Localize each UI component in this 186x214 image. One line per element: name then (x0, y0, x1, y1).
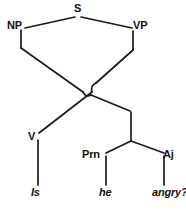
tree-edges (0, 0, 186, 214)
edge-np-diagonal-a (21, 48, 83, 92)
node-label-vp: VP (133, 20, 147, 31)
edge-vp-hop (92, 83, 97, 92)
node-label-prn: Prn (82, 149, 100, 160)
edge-s-np (25, 17, 75, 28)
edge-vp-diagonal-b (39, 92, 92, 133)
syntax-tree-diagram: S NP VP V Prn Aj Is he angry? (0, 0, 186, 214)
terminal-label-he: he (99, 187, 111, 198)
terminal-label-is: Is (31, 187, 40, 198)
terminal-label-angry: angry? (152, 187, 186, 198)
node-label-v: V (28, 131, 35, 142)
edge-s-vp (81, 17, 132, 28)
edge-split-prn (106, 141, 131, 153)
node-label-s: S (74, 3, 81, 14)
edge-split-aj (131, 141, 164, 153)
node-label-np: NP (7, 20, 22, 31)
edge-np-diagonal-b (91, 95, 130, 111)
edge-vp-diagonal-a (96, 50, 133, 83)
node-label-aj: Aj (163, 149, 174, 160)
